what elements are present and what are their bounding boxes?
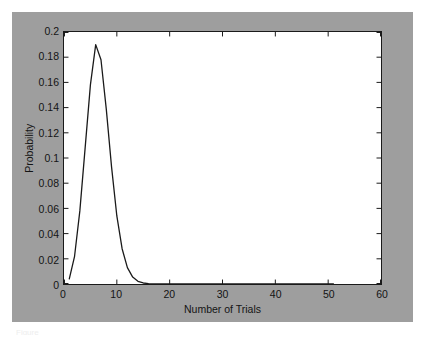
y-axis-tick-labels: 00.020.040.060.080.10.120.140.160.180.2 — [12, 31, 59, 285]
figure-canvas: 00.020.040.060.080.10.120.140.160.180.2 … — [12, 12, 413, 322]
x-tick-label: 50 — [323, 289, 335, 300]
y-tick-label: 0.06 — [39, 204, 59, 215]
x-axis-tick-labels: 0102030405060 — [63, 289, 382, 303]
y-tick-label: 0.14 — [39, 102, 59, 113]
axis-ticks — [64, 32, 381, 284]
x-axis-title: Number of Trials — [63, 304, 382, 315]
y-tick-label: 0.04 — [39, 229, 59, 240]
probability-curve — [69, 45, 333, 284]
y-tick-label: 0.2 — [44, 26, 59, 37]
x-tick-label: 10 — [110, 289, 122, 300]
y-tick-label: 0.16 — [39, 77, 59, 88]
caption-fragment: Figure — [16, 329, 316, 335]
plot-area — [63, 31, 382, 285]
x-tick-label: 60 — [376, 289, 388, 300]
y-tick-label: 0.1 — [44, 153, 59, 164]
y-axis-title: Probability — [24, 103, 35, 193]
x-tick-label: 30 — [217, 289, 229, 300]
x-tick-label: 0 — [60, 289, 66, 300]
y-tick-label: 0.08 — [39, 178, 59, 189]
figure-root: 00.020.040.060.080.10.120.140.160.180.2 … — [0, 0, 429, 337]
plot-svg — [64, 32, 381, 284]
x-tick-label: 20 — [163, 289, 175, 300]
y-tick-label: 0.18 — [39, 51, 59, 62]
x-tick-label: 40 — [270, 289, 282, 300]
y-tick-label: 0 — [53, 280, 59, 291]
y-tick-label: 0.12 — [39, 127, 59, 138]
y-tick-label: 0.02 — [39, 254, 59, 265]
